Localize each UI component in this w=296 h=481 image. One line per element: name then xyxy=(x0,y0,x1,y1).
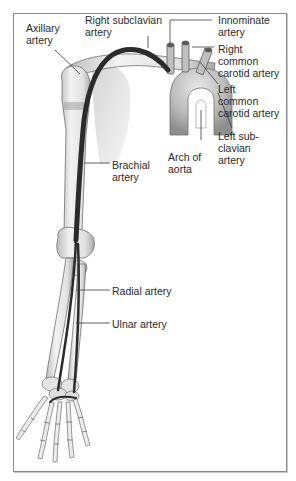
label-right-common-carotid-artery: Right common carotid artery xyxy=(218,43,279,79)
label-left-common-carotid-artery: Left common carotid artery xyxy=(218,83,279,119)
label-radial-artery: Radial artery xyxy=(112,285,172,297)
label-right-subclavian-artery: Right subclavian artery xyxy=(85,14,162,38)
hand-bones xyxy=(16,396,90,462)
label-arch-of-aorta: Arch of aorta xyxy=(168,151,201,175)
label-axillary-artery: Axillary artery xyxy=(26,22,60,46)
label-ulnar-artery: Ulnar artery xyxy=(112,318,167,330)
label-brachial-artery: Brachial artery xyxy=(112,159,150,183)
label-innominate-artery: Innominate artery xyxy=(218,14,270,38)
label-left-subclavian-artery: Left sub- clavian artery xyxy=(218,130,259,166)
